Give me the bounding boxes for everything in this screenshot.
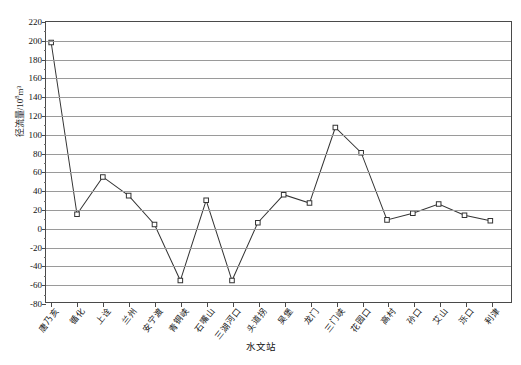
chart-root: 径流量/108m³ 220200180160140120100806040200… bbox=[0, 0, 521, 365]
data-point-marker[interactable] bbox=[333, 125, 338, 130]
y-minor-tick bbox=[44, 182, 47, 183]
grid-line bbox=[46, 248, 511, 249]
data-point-marker[interactable] bbox=[462, 213, 467, 218]
y-tick-mark bbox=[42, 78, 46, 79]
grid-line bbox=[46, 78, 511, 79]
y-tick-mark bbox=[42, 97, 46, 98]
grid-line bbox=[46, 60, 511, 61]
y-tick-mark bbox=[42, 135, 46, 136]
y-tick-label: 20 bbox=[2, 206, 42, 215]
y-minor-tick bbox=[44, 257, 47, 258]
y-tick-label: 40 bbox=[2, 187, 42, 196]
data-point-marker[interactable] bbox=[281, 192, 286, 197]
data-point-marker[interactable] bbox=[385, 218, 390, 223]
y-minor-tick bbox=[44, 238, 47, 239]
grid-line bbox=[46, 229, 511, 230]
y-tick-mark bbox=[42, 266, 46, 267]
y-minor-tick bbox=[44, 144, 47, 145]
y-minor-tick bbox=[44, 219, 47, 220]
data-point-marker[interactable] bbox=[436, 202, 441, 207]
grid-line bbox=[46, 172, 511, 173]
y-tick-label: 120 bbox=[2, 112, 42, 121]
y-tick-label: 160 bbox=[2, 74, 42, 83]
y-minor-tick bbox=[44, 163, 47, 164]
grid-line bbox=[46, 154, 511, 155]
y-tick-mark bbox=[42, 191, 46, 192]
y-tick-mark bbox=[42, 60, 46, 61]
y-tick-mark bbox=[42, 210, 46, 211]
data-point-marker[interactable] bbox=[230, 278, 235, 283]
y-tick-label: 0 bbox=[2, 224, 42, 233]
y-tick-label: 220 bbox=[2, 18, 42, 27]
y-minor-tick bbox=[44, 31, 47, 32]
y-minor-tick bbox=[44, 88, 47, 89]
plot-area: 220200180160140120100806040200-20-40-60-… bbox=[45, 21, 512, 303]
data-point-marker[interactable] bbox=[75, 212, 80, 217]
y-minor-tick bbox=[44, 295, 47, 296]
x-tick-mark bbox=[363, 302, 364, 307]
data-point-marker[interactable] bbox=[488, 219, 493, 224]
data-point-marker[interactable] bbox=[178, 278, 183, 283]
y-tick-mark bbox=[42, 248, 46, 249]
data-point-marker[interactable] bbox=[101, 175, 106, 180]
y-minor-tick bbox=[44, 201, 47, 202]
y-tick-label: -20 bbox=[2, 243, 42, 252]
data-point-marker[interactable] bbox=[307, 201, 312, 206]
x-tick-mark bbox=[311, 302, 312, 307]
data-point-marker[interactable] bbox=[126, 193, 131, 198]
y-tick-mark bbox=[42, 116, 46, 117]
y-tick-label: -80 bbox=[2, 300, 42, 309]
data-point-marker[interactable] bbox=[152, 222, 157, 227]
y-minor-tick bbox=[44, 69, 47, 70]
y-tick-mark bbox=[42, 172, 46, 173]
y-tick-label: 200 bbox=[2, 36, 42, 45]
y-tick-mark bbox=[42, 154, 46, 155]
grid-line bbox=[46, 135, 511, 136]
y-tick-mark bbox=[42, 285, 46, 286]
runoff-series bbox=[46, 22, 511, 302]
grid-line bbox=[46, 191, 511, 192]
data-point-marker[interactable] bbox=[204, 198, 209, 203]
y-tick-label: 180 bbox=[2, 55, 42, 64]
y-tick-label: -40 bbox=[2, 262, 42, 271]
data-point-marker[interactable] bbox=[256, 220, 261, 225]
y-minor-tick bbox=[44, 125, 47, 126]
y-minor-tick bbox=[44, 276, 47, 277]
y-tick-label: 60 bbox=[2, 168, 42, 177]
y-tick-mark bbox=[42, 304, 46, 305]
data-point-marker[interactable] bbox=[411, 211, 416, 216]
grid-line bbox=[46, 97, 511, 98]
y-tick-mark bbox=[42, 22, 46, 23]
y-tick-mark bbox=[42, 41, 46, 42]
grid-line bbox=[46, 116, 511, 117]
y-tick-label: 140 bbox=[2, 93, 42, 102]
x-axis-title: 水文站 bbox=[0, 339, 521, 353]
y-tick-label: 100 bbox=[2, 130, 42, 139]
y-minor-tick bbox=[44, 50, 47, 51]
y-tick-mark bbox=[42, 229, 46, 230]
x-tick-mark bbox=[285, 302, 286, 307]
grid-line bbox=[46, 210, 511, 211]
grid-line bbox=[46, 41, 511, 42]
y-tick-label: -60 bbox=[2, 281, 42, 290]
x-tick-mark bbox=[337, 302, 338, 307]
grid-line bbox=[46, 266, 511, 267]
y-tick-label: 80 bbox=[2, 149, 42, 158]
y-minor-tick bbox=[44, 107, 47, 108]
